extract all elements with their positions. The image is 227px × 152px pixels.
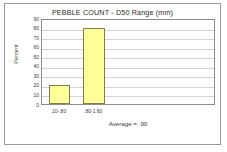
plot-area [41, 19, 215, 105]
y-tick-label: 60 [25, 45, 39, 50]
bar [83, 28, 105, 104]
y-tick-label: 10 [25, 93, 39, 98]
y-tick-label: 40 [25, 64, 39, 69]
y-tick-label: 70 [25, 36, 39, 41]
bars-layer [42, 20, 214, 104]
y-tick-label: 20 [25, 83, 39, 88]
y-tick-label: 30 [25, 74, 39, 79]
x-axis-tick-labels: .10-.80.80-1.60 [41, 108, 215, 118]
y-tick-label: 90 [25, 17, 39, 22]
y-tick-label: 50 [25, 55, 39, 60]
average-annotation: Average = .90 [41, 120, 215, 127]
y-tick-label: 80 [25, 26, 39, 31]
y-axis-tick-labels: 0102030405060708090 [25, 19, 39, 105]
chart-frame: PEBBLE COUNT - D50 Range (mm) Percent 01… [4, 3, 221, 145]
x-tick-label: .10-.80 [41, 108, 76, 114]
y-tick-label: 0 [25, 103, 39, 108]
x-tick-label: .80-1.60 [76, 108, 111, 114]
bar [49, 85, 71, 104]
y-axis-title: Percent [13, 34, 19, 74]
